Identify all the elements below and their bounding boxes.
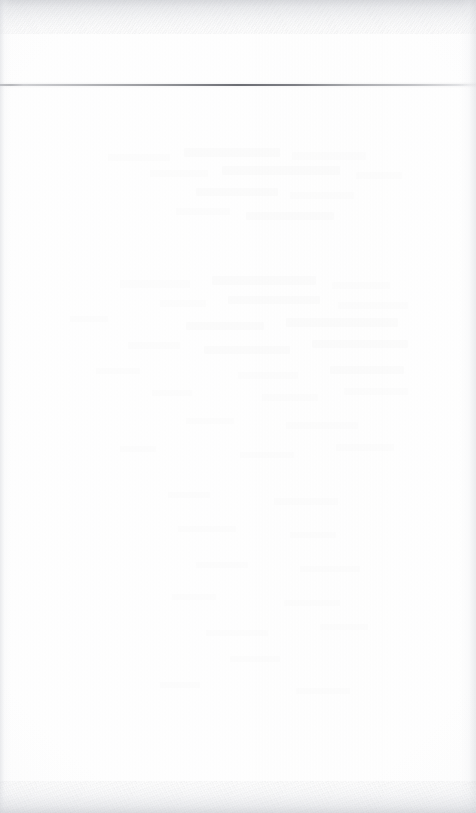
scan-edge-band-right (460, 0, 476, 813)
scan-edge-band-left (0, 0, 11, 813)
scan-edge-noise-bottom (0, 781, 476, 813)
header-rule-line (0, 84, 476, 86)
scanned-page (0, 0, 476, 813)
paper-surface (0, 0, 476, 813)
scan-edge-noise-top (0, 0, 476, 34)
header-rule (0, 84, 476, 86)
